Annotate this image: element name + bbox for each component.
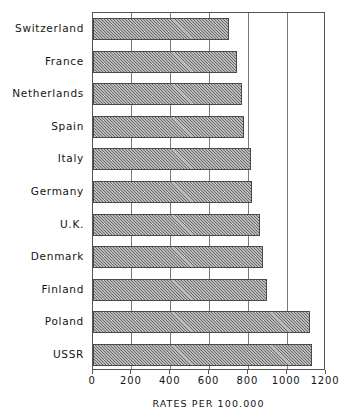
y-axis-label-poland: Poland — [45, 314, 84, 328]
x-tick-800 — [247, 370, 248, 374]
y-axis-label-netherlands: Netherlands — [12, 86, 84, 100]
bar-row — [93, 83, 324, 105]
bar-spain — [93, 116, 244, 138]
x-tick-label-400: 400 — [159, 375, 181, 386]
x-tick-1200 — [325, 370, 326, 374]
x-tick-600 — [208, 370, 209, 374]
bar-denmark — [93, 246, 263, 268]
bar-poland — [93, 311, 310, 333]
y-axis-category-labels: SwitzerlandFranceNetherlandsSpainItalyGe… — [0, 12, 88, 370]
x-tick-label-0: 0 — [88, 375, 95, 386]
bar-italy — [93, 148, 251, 170]
y-axis-label-u-k: U.K. — [60, 217, 84, 231]
bar-ussr — [93, 344, 312, 366]
y-axis-label-ussr: USSR — [53, 347, 84, 361]
plot-area — [92, 12, 325, 370]
bar-germany — [93, 181, 252, 203]
x-axis: 020040060080010001200 — [92, 370, 325, 400]
x-tick-400 — [169, 370, 170, 374]
bar-finland — [93, 279, 267, 301]
bar-switzerland — [93, 18, 229, 40]
y-axis-label-italy: Italy — [58, 151, 84, 165]
bar-row — [93, 116, 324, 138]
y-axis-label-germany: Germany — [31, 184, 84, 198]
x-tick-label-1000: 1000 — [272, 375, 301, 386]
bar-france — [93, 51, 237, 73]
bar-row — [93, 214, 324, 236]
x-tick-200 — [130, 370, 131, 374]
bar-row — [93, 18, 324, 40]
bar-netherlands — [93, 83, 242, 105]
y-axis-label-denmark: Denmark — [31, 249, 84, 263]
bar-row — [93, 344, 324, 366]
y-axis-label-france: France — [45, 54, 84, 68]
bar-row — [93, 181, 324, 203]
bar-row — [93, 148, 324, 170]
bar-chart: SwitzerlandFranceNetherlandsSpainItalyGe… — [0, 0, 346, 417]
y-axis-label-finland: Finland — [42, 282, 84, 296]
x-tick-label-800: 800 — [237, 375, 259, 386]
x-tick-label-200: 200 — [120, 375, 142, 386]
bar-u-k — [93, 214, 260, 236]
x-axis-title: RATES PER 100.000 — [92, 398, 325, 409]
bar-row — [93, 311, 324, 333]
x-tick-label-600: 600 — [198, 375, 220, 386]
y-axis-label-switzerland: Switzerland — [15, 21, 84, 35]
bar-row — [93, 279, 324, 301]
x-tick-0 — [92, 370, 93, 374]
x-tick-label-1200: 1200 — [311, 375, 340, 386]
bar-row — [93, 51, 324, 73]
bar-row — [93, 246, 324, 268]
x-tick-1000 — [286, 370, 287, 374]
y-axis-label-spain: Spain — [51, 119, 84, 133]
